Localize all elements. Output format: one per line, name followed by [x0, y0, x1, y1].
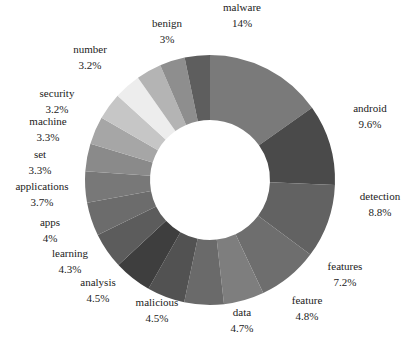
slice-label-name: set: [29, 146, 52, 162]
slice-label-percent: 3.3%: [29, 162, 52, 178]
slice-label-applications: applications3.7%: [15, 178, 68, 210]
slice-label-percent: 9.6%: [353, 116, 387, 132]
slice-label-name: applications: [15, 178, 68, 194]
slice-label-percent: 3.3%: [29, 129, 66, 145]
slice-label-malicious: malicious4.5%: [136, 294, 179, 326]
slice-label-name: detection: [360, 188, 400, 204]
slice-label-name: number: [73, 41, 107, 57]
slice-label-percent: 4.5%: [136, 310, 179, 326]
slice-label-number: number3.2%: [73, 41, 107, 73]
slice-label-data: data4.7%: [231, 304, 254, 336]
slice-label-percent: 8.8%: [360, 204, 400, 220]
slice-label-apps: apps4%: [40, 214, 60, 246]
slice-label-features: features7.2%: [328, 258, 363, 290]
slice-label-name: features: [328, 258, 363, 274]
slice-label-name: malicious: [136, 294, 179, 310]
slice-label-name: learning: [52, 245, 88, 261]
slice-label-feature: feature4.8%: [292, 292, 323, 324]
slice-label-name: apps: [40, 214, 60, 230]
slice-label-percent: 4.3%: [52, 261, 88, 277]
slice-label-benign: benign3%: [152, 15, 182, 47]
slice-label-percent: 3.2%: [40, 101, 75, 117]
slice-label-percent: 7.2%: [328, 274, 363, 290]
slice-label-percent: 4.7%: [231, 320, 254, 336]
slice-label-percent: 14%: [223, 15, 261, 31]
donut-chart: [0, 0, 417, 347]
slice-label-analysis: analysis4.5%: [80, 274, 115, 306]
slice-label-name: android: [353, 100, 387, 116]
slice-label-security: security3.2%: [40, 85, 75, 117]
slice-label-percent: 3%: [152, 31, 182, 47]
slice-label-name: feature: [292, 292, 323, 308]
slice-label-learning: learning4.3%: [52, 245, 88, 277]
slice-label-android: android9.6%: [353, 100, 387, 132]
slice-label-name: malware: [223, 0, 261, 15]
slice-label-malware: malware14%: [223, 0, 261, 31]
slice-label-percent: 3.2%: [73, 57, 107, 73]
slice-label-detection: detection8.8%: [360, 188, 400, 220]
slice-label-percent: 3.7%: [15, 194, 68, 210]
slice-label-percent: 4.8%: [292, 308, 323, 324]
slice-label-set: set3.3%: [29, 146, 52, 178]
slice-label-percent: 4.5%: [80, 290, 115, 306]
slice-label-name: benign: [152, 15, 182, 31]
slice-label-name: security: [40, 85, 75, 101]
slice-label-percent: 4%: [40, 230, 60, 246]
slice-label-machine: machine3.3%: [29, 113, 66, 145]
slice-label-name: data: [231, 304, 254, 320]
